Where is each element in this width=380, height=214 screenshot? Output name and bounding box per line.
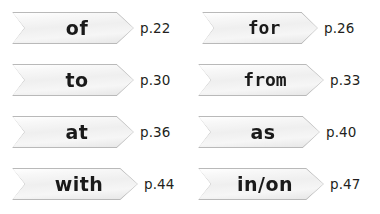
- page-number-for: p.26: [324, 20, 354, 36]
- page-number-in-on: p.47: [330, 176, 360, 192]
- banner-for[interactable]: for: [202, 12, 318, 44]
- banner-word-for: for: [240, 19, 281, 37]
- banner-word-with: with: [47, 175, 104, 194]
- entry-at[interactable]: at p.36: [12, 115, 170, 149]
- entry-to[interactable]: to p.30: [12, 63, 170, 97]
- banner-word-at: at: [58, 123, 89, 142]
- banner-as[interactable]: as: [198, 116, 320, 148]
- banner-in-on[interactable]: in/on: [198, 168, 324, 200]
- banner-board: of p.22 to p.30 at p.36 with p.44 for p.…: [0, 0, 380, 214]
- page-number-to: p.30: [140, 72, 170, 88]
- banner-word-in-on: in/on: [229, 175, 293, 194]
- banner-at[interactable]: at: [12, 116, 134, 148]
- page-number-at: p.36: [140, 124, 170, 140]
- entry-in-on[interactable]: in/on p.47: [198, 167, 360, 201]
- page-number-of: p.22: [140, 20, 170, 36]
- entry-as[interactable]: as p.40: [198, 115, 356, 149]
- page-number-as: p.40: [326, 124, 356, 140]
- entry-for[interactable]: for p.26: [202, 11, 354, 45]
- entry-of[interactable]: of p.22: [12, 11, 170, 45]
- page-number-from: p.33: [330, 72, 360, 88]
- banner-of[interactable]: of: [12, 12, 134, 44]
- banner-from[interactable]: from: [198, 64, 324, 96]
- entry-from[interactable]: from p.33: [198, 63, 360, 97]
- banner-word-from: from: [235, 71, 286, 89]
- banner-word-of: of: [58, 19, 88, 38]
- banner-word-as: as: [242, 123, 275, 142]
- banner-with[interactable]: with: [12, 168, 138, 200]
- banner-word-to: to: [57, 71, 88, 90]
- banner-to[interactable]: to: [12, 64, 134, 96]
- page-number-with: p.44: [144, 176, 174, 192]
- entry-with[interactable]: with p.44: [12, 167, 174, 201]
